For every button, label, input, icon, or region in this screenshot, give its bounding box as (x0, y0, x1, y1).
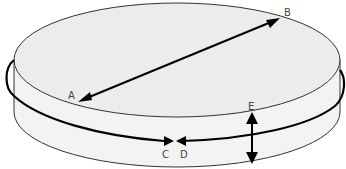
label-c: C (162, 149, 169, 160)
cylinder-diagram: A B C D E (0, 0, 346, 169)
label-e: E (248, 101, 254, 112)
label-b: B (284, 7, 291, 18)
label-a: A (68, 90, 75, 101)
label-d: D (180, 149, 188, 160)
